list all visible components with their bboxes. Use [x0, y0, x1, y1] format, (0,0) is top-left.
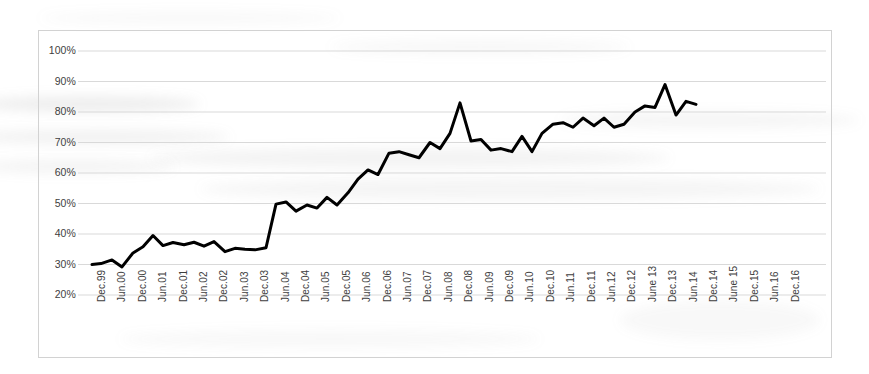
- y-axis-tick-label: 30%: [30, 258, 76, 270]
- y-axis-tick-label: 40%: [30, 227, 76, 239]
- y-axis-tick-label: 20%: [30, 288, 76, 300]
- y-axis-tick-label: 50%: [30, 197, 76, 209]
- y-axis: 20%30%40%50%60%70%80%90%100%: [0, 0, 869, 374]
- y-axis-tick-label: 70%: [30, 136, 76, 148]
- y-axis-tick-label: 60%: [30, 166, 76, 178]
- y-axis-tick-label: 90%: [30, 75, 76, 87]
- y-axis-tick-label: 80%: [30, 105, 76, 117]
- chart-page: 20%30%40%50%60%70%80%90%100% Dec.99Jun.0…: [0, 0, 869, 374]
- y-axis-tick-label: 100%: [30, 44, 76, 56]
